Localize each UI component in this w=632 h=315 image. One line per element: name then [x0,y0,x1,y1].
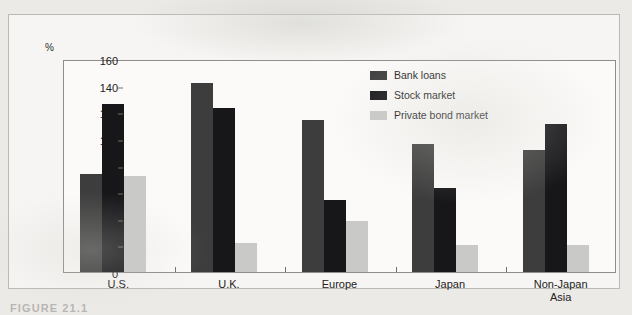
bar [567,245,589,272]
x-axis-separator [506,267,507,272]
y-axis-tick-label: 160 [70,55,118,67]
legend-item: Stock market [370,87,488,103]
x-axis-tick-label: U.K. [174,278,285,291]
bar [456,245,478,272]
x-axis-separator [396,267,397,272]
y-axis-unit-label: % [45,42,54,53]
legend-item-label: Private bond market [394,109,488,121]
chart-legend: Bank loansStock marketPrivate bond marke… [370,67,488,127]
legend-swatch-private-bond-market [370,111,387,120]
bar [523,150,545,272]
x-axis-separator [175,267,176,272]
bar [324,200,346,272]
bar [191,83,213,272]
bar [213,108,235,272]
bar [302,120,324,272]
bar [412,144,434,272]
x-axis-tick-label: U.S. [63,278,174,291]
x-axis-tick-label: Europe [284,278,395,291]
legend-item-label: Stock market [394,89,455,101]
y-axis-tick-mark [118,220,123,221]
legend-item-label: Bank loans [394,69,446,81]
bar [346,221,368,272]
figure-frame: % 020406080100120140160 U.S.U.K.EuropeJa… [8,14,620,289]
bar [235,243,257,272]
figure-caption: FIGURE 21.1 [10,302,88,315]
legend-item: Private bond market [370,107,488,123]
y-axis-tick-mark [118,140,123,141]
y-axis-tick-mark [118,167,123,168]
figure-page: % 020406080100120140160 U.S.U.K.EuropeJa… [0,0,632,315]
x-axis-tick-label: Non-Japan Asia [505,278,616,304]
bar [545,124,567,272]
bar [124,176,146,272]
legend-item: Bank loans [370,67,488,83]
bar [434,188,456,272]
legend-swatch-bank-loans [370,71,387,80]
x-axis-separator [285,267,286,272]
bar [80,174,102,273]
y-axis-tick-mark [118,194,123,195]
y-axis-tick-mark [118,247,123,248]
y-axis-tick-label: 140 [70,82,118,94]
y-axis-tick-mark [118,87,123,88]
plot-area: 020406080100120140160 [63,60,616,273]
y-axis-tick-mark [118,114,123,115]
x-axis-tick-label: Japan [395,278,506,291]
legend-swatch-stock-market [370,91,387,100]
